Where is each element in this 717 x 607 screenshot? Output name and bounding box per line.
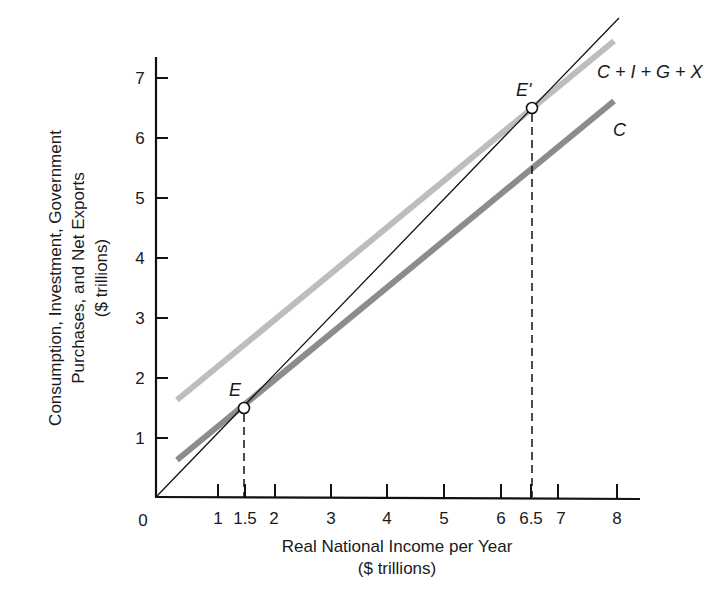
x-axis-title: Real National Income per Year [282, 537, 513, 556]
y-axis-title-line2: Purchases, and Net Exports [69, 172, 88, 384]
y-axis-title-line3: ($ trillions) [92, 239, 111, 317]
y-tick-6: 6 [135, 129, 144, 148]
x-tick-1: 1 [213, 509, 222, 528]
x-tick-8: 8 [612, 509, 621, 528]
label-cigx: C + I + G + X [597, 62, 704, 82]
x-tick-5: 5 [439, 509, 448, 528]
x-tick-2: 2 [269, 509, 278, 528]
x-ticks [218, 484, 617, 498]
y-tick-1: 1 [135, 429, 144, 448]
y-ticks [156, 78, 168, 438]
x-tick-0: 0 [138, 511, 147, 530]
y-tick-3: 3 [135, 309, 144, 328]
point-e [239, 403, 250, 414]
point-e-prime [527, 103, 538, 114]
x-tick-6: 6 [496, 509, 505, 528]
x-tick-4: 4 [382, 509, 391, 528]
y-tick-4: 4 [135, 249, 144, 268]
forty-five-degree-line [156, 18, 619, 497]
x-tick-1-5: 1.5 [233, 509, 257, 528]
chart: 1 2 3 4 5 6 7 0 1 1.5 2 3 4 5 6 6.5 7 8 … [0, 0, 717, 607]
x-tick-6-5: 6.5 [519, 509, 543, 528]
label-e: E [229, 380, 242, 400]
x-axis-unit: ($ trillions) [358, 559, 436, 578]
y-axis-title-line1: Consumption, Investment, Government [46, 130, 65, 426]
y-tick-5: 5 [135, 189, 144, 208]
y-tick-7: 7 [135, 69, 144, 88]
x-tick-7: 7 [556, 509, 565, 528]
label-c: C [613, 120, 627, 140]
label-e-prime: E' [516, 80, 532, 100]
x-axis [155, 497, 640, 499]
cigx-line [177, 41, 614, 400]
x-tick-3: 3 [326, 509, 335, 528]
y-tick-2: 2 [135, 369, 144, 388]
